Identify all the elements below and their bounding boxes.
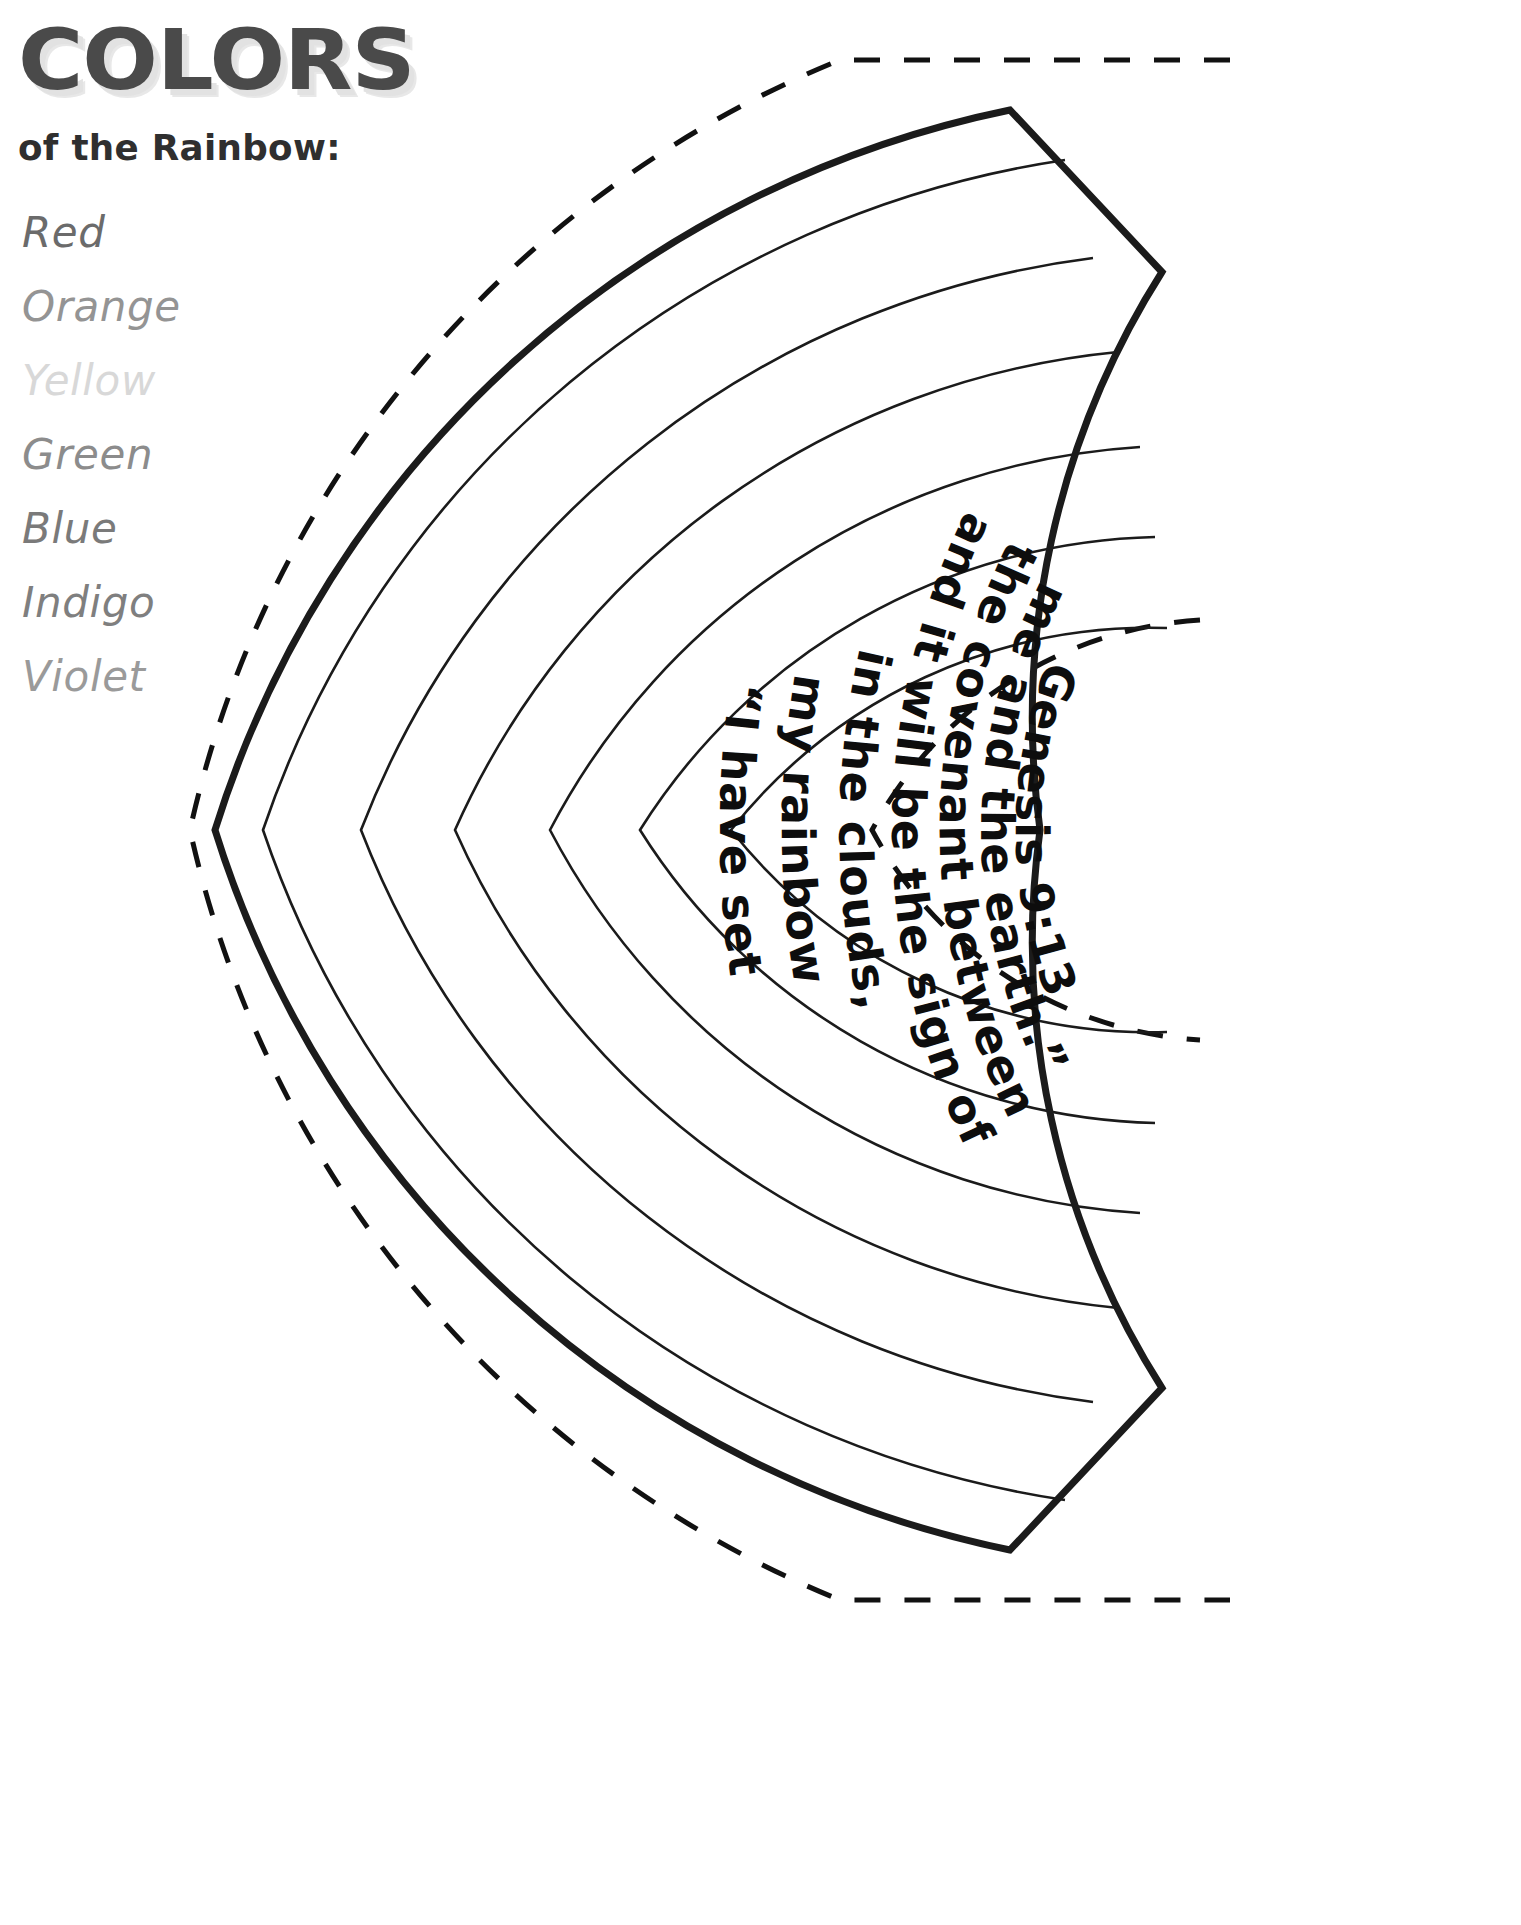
band-divider-3 (455, 352, 1118, 1308)
verse-band-4-text: and it will be the sign of (881, 505, 1005, 1154)
page-subtitle: of the Rainbow: (18, 128, 446, 168)
band-divider-4 (550, 447, 1140, 1213)
title-block: COLORS of the Rainbow: (18, 18, 438, 168)
verse-band-7-reference: Genesis 9:13 (1005, 656, 1089, 1004)
color-name-red: Red (22, 208, 105, 257)
inner-cut-line (872, 620, 1200, 1040)
band-divider-1 (263, 160, 1065, 1500)
color-list-item-orange: Orange (22, 270, 352, 344)
color-list-item-violet: Violet (22, 640, 352, 714)
verse-band-6: me and the earth.” (970, 575, 1080, 1085)
inner-cut-line-group (872, 620, 1200, 1040)
color-name-orange: Orange (22, 282, 181, 331)
page-title: COLORS (18, 18, 463, 102)
band-divider-5 (640, 537, 1155, 1123)
verse-band-5: the covenant between (928, 534, 1048, 1126)
rainbow-color-list: Red Orange Yellow Green Blue Indigo Viol… (22, 196, 352, 714)
verse-band-1: “I have set (709, 680, 773, 980)
verse-band-1-text: “I have set (709, 680, 773, 980)
rainbow-verse-text-group: “I have set my rainbow in the clouds, an… (709, 505, 1089, 1154)
verse-band-2-text: my rainbow (771, 671, 838, 988)
band-divider-2 (361, 258, 1093, 1402)
verse-band-3: in the clouds, (828, 645, 902, 1015)
verse-band-2: my rainbow (771, 671, 838, 988)
rainbow-outer-boundary (215, 110, 1162, 1550)
color-list-item-red: Red (22, 196, 352, 270)
verse-band-6-text: me and the earth.” (970, 575, 1080, 1085)
color-list-item-green: Green (22, 418, 352, 492)
verse-reference-text: Genesis 9:13 (1005, 656, 1089, 1004)
verse-band-4: and it will be the sign of (881, 505, 1005, 1154)
color-name-green: Green (22, 430, 153, 479)
verse-band-3-text: in the clouds, (828, 645, 902, 1015)
verse-band-5-text: the covenant between (928, 534, 1048, 1126)
rainbow-band-outlines (215, 110, 1167, 1550)
band-divider-6 (731, 628, 1167, 1033)
color-name-indigo: Indigo (22, 578, 155, 627)
color-name-violet: Violet (22, 652, 146, 701)
color-name-blue: Blue (22, 504, 117, 553)
worksheet-page: COLORS of the Rainbow: Red Orange Yellow… (0, 0, 1521, 1925)
color-list-item-blue: Blue (22, 492, 352, 566)
color-list-item-indigo: Indigo (22, 566, 352, 640)
color-list-item-yellow: Yellow (22, 344, 352, 418)
color-name-yellow: Yellow (22, 356, 156, 405)
